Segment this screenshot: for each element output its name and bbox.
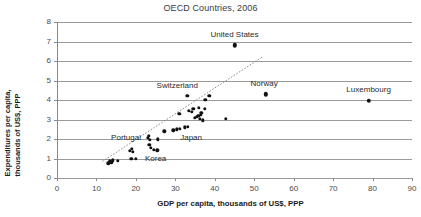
point-label-switzerland: Switzerland — [157, 82, 198, 90]
x-tick-70: 70 — [321, 185, 345, 193]
tickmark-x-0 — [57, 178, 58, 181]
trendline-segment — [102, 57, 262, 161]
gridline-y-0 — [57, 178, 412, 179]
tickmark-x-90 — [412, 178, 413, 181]
tickmark-x-10 — [96, 178, 97, 181]
tickmark-x-40 — [215, 178, 216, 181]
tickmark-x-80 — [373, 178, 374, 181]
y-tick-7: 7 — [35, 38, 51, 46]
point-label-luxembourg: Luxembourg — [346, 86, 390, 94]
x-tick-20: 20 — [124, 185, 148, 193]
tickmark-x-60 — [294, 178, 295, 181]
y-axis-label-line2: thousands of US$, PPP — [14, 93, 22, 176]
plot-area: United StatesSwitzerlandNorwayLuxembourg… — [57, 22, 412, 178]
point-label-japan: Japan — [180, 134, 202, 142]
tickmark-x-70 — [333, 178, 334, 181]
y-axis-label-line1: Expenditures per capita, — [4, 89, 12, 176]
x-tick-60: 60 — [282, 185, 306, 193]
x-tick-50: 50 — [242, 185, 266, 193]
tickmark-x-30 — [175, 178, 176, 181]
chart-figure: OECD Countries, 2006 Expenditures per ca… — [0, 0, 421, 217]
y-axis-label: Expenditures per capita, thousands of US… — [2, 24, 26, 176]
y-tick-0: 0 — [35, 174, 51, 182]
y-tick-8: 8 — [35, 18, 51, 26]
y-tick-5: 5 — [35, 77, 51, 85]
x-tick-40: 40 — [203, 185, 227, 193]
x-tick-10: 10 — [84, 185, 108, 193]
x-tick-90: 90 — [400, 185, 421, 193]
point-label-united-states: United States — [210, 31, 258, 39]
point-label-korea: Korea — [145, 155, 166, 163]
y-tick-3: 3 — [35, 116, 51, 124]
tickmark-x-20 — [136, 178, 137, 181]
y-tick-1: 1 — [35, 155, 51, 163]
x-tick-0: 0 — [45, 185, 69, 193]
point-label-norway: Norway — [251, 80, 278, 88]
y-tick-2: 2 — [35, 135, 51, 143]
chart-title: OECD Countries, 2006 — [0, 3, 421, 13]
x-tick-80: 80 — [361, 185, 385, 193]
tickmark-x-50 — [254, 178, 255, 181]
x-axis-label: GDP per capita, thousands of US$, PPP — [40, 199, 421, 208]
x-tick-30: 30 — [163, 185, 187, 193]
y-tick-6: 6 — [35, 57, 51, 65]
point-label-portugal: Portugal — [111, 134, 141, 142]
y-tick-4: 4 — [35, 96, 51, 104]
